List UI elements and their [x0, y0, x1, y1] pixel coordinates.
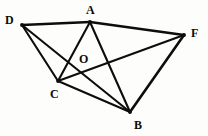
geometry-figure: ADFCBO [0, 0, 208, 136]
point-label-d: D [5, 14, 14, 26]
edge-af [90, 22, 184, 35]
vertex-dot-d [20, 23, 24, 27]
vertex-dot-c [56, 79, 60, 83]
edge-cf [58, 35, 184, 81]
point-label-f: F [191, 27, 198, 39]
vertex-dot-f [182, 33, 186, 37]
vertex-dot-a [88, 20, 92, 24]
edges-group [22, 22, 184, 112]
edge-db [22, 25, 130, 112]
point-label-a: A [86, 4, 95, 16]
figure-canvas [0, 0, 208, 136]
point-label-b: B [134, 119, 142, 131]
point-label-c: C [50, 88, 59, 100]
vertex-dot-b [128, 110, 132, 114]
edge-da [22, 22, 90, 25]
edge-dc [22, 25, 58, 81]
edge-bf [130, 35, 184, 112]
point-label-o: O [79, 53, 88, 65]
